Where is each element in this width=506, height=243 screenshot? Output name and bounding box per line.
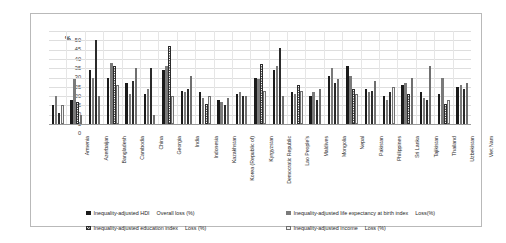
bar[interactable]	[239, 92, 241, 124]
bar[interactable]	[132, 81, 134, 124]
bar[interactable]	[113, 66, 115, 124]
bar[interactable]	[110, 63, 112, 124]
legend-item[interactable]: Inequality-adjusted life expectancy at b…	[286, 210, 486, 216]
bar[interactable]	[404, 83, 406, 124]
legend-item[interactable]: Inequality-adjusted incomeLoss (%)	[286, 225, 486, 231]
bar[interactable]	[76, 102, 78, 124]
bar[interactable]	[383, 96, 385, 124]
bar[interactable]	[89, 70, 91, 124]
bar[interactable]	[190, 76, 192, 124]
bar[interactable]	[125, 83, 127, 124]
bar[interactable]	[441, 78, 443, 125]
bar[interactable]	[220, 102, 222, 124]
bar[interactable]	[337, 79, 339, 124]
bar[interactable]	[135, 68, 137, 124]
bar[interactable]	[263, 91, 265, 124]
bar[interactable]	[70, 100, 72, 124]
bar[interactable]	[129, 94, 131, 124]
bar[interactable]	[273, 70, 275, 124]
bar[interactable]	[98, 96, 100, 124]
bar[interactable]	[61, 105, 63, 124]
bar[interactable]	[312, 92, 314, 124]
bar[interactable]	[165, 66, 167, 124]
bar[interactable]	[319, 89, 321, 124]
bar[interactable]	[423, 98, 425, 124]
legend-swatch-icon	[86, 211, 91, 216]
bar[interactable]	[52, 105, 54, 124]
bar[interactable]	[181, 91, 183, 124]
bar[interactable]	[365, 89, 367, 124]
bar[interactable]	[153, 115, 155, 124]
bar[interactable]	[227, 98, 229, 124]
bar[interactable]	[456, 87, 458, 124]
bar[interactable]	[346, 66, 348, 124]
bar[interactable]	[438, 94, 440, 124]
bar[interactable]	[392, 87, 394, 124]
bar[interactable]	[245, 96, 247, 124]
legend-item[interactable]: Inequality-adjusted education indexLoss …	[86, 225, 286, 231]
bar[interactable]	[420, 92, 422, 124]
bar-group	[361, 31, 379, 124]
bar[interactable]	[162, 70, 164, 124]
bar[interactable]	[328, 76, 330, 124]
bar[interactable]	[355, 94, 357, 124]
bar[interactable]	[116, 85, 118, 124]
bar-group	[305, 31, 323, 124]
bar[interactable]	[276, 66, 278, 124]
bar[interactable]	[389, 92, 391, 124]
bar[interactable]	[80, 115, 82, 124]
bar[interactable]	[282, 96, 284, 124]
bar[interactable]	[236, 94, 238, 124]
legend-sublabel: Loss(%)	[415, 210, 435, 216]
bar[interactable]	[294, 94, 296, 124]
bar[interactable]	[202, 98, 204, 124]
bar[interactable]	[257, 79, 259, 124]
bar[interactable]	[447, 100, 449, 124]
bar[interactable]	[208, 96, 210, 124]
bar[interactable]	[242, 96, 244, 124]
bar[interactable]	[168, 46, 170, 124]
bar[interactable]	[184, 92, 186, 124]
bar[interactable]	[279, 48, 281, 124]
bar[interactable]	[58, 113, 60, 124]
legend-item[interactable]: Inequality-adjusted HDIOverall loss (%)	[86, 210, 286, 216]
bar[interactable]	[205, 104, 207, 124]
bar[interactable]	[254, 78, 256, 125]
bar[interactable]	[224, 105, 226, 124]
bar[interactable]	[463, 89, 465, 124]
bar[interactable]	[260, 64, 262, 124]
bar[interactable]	[187, 89, 189, 124]
bar[interactable]	[217, 100, 219, 124]
bar[interactable]	[309, 96, 311, 124]
bar[interactable]	[107, 78, 109, 125]
bar[interactable]	[150, 68, 152, 124]
bar[interactable]	[371, 91, 373, 124]
bar[interactable]	[368, 92, 370, 124]
bar[interactable]	[199, 92, 201, 124]
bar[interactable]	[460, 85, 462, 124]
bar[interactable]	[147, 89, 149, 124]
bar[interactable]	[95, 40, 97, 124]
bar[interactable]	[407, 94, 409, 124]
bar[interactable]	[300, 91, 302, 124]
bar[interactable]	[426, 100, 428, 124]
bar[interactable]	[92, 78, 94, 125]
bar[interactable]	[73, 79, 75, 124]
bar[interactable]	[374, 81, 376, 124]
bar[interactable]	[411, 78, 413, 125]
bar[interactable]	[144, 94, 146, 124]
bar[interactable]	[401, 85, 403, 124]
bar[interactable]	[297, 85, 299, 124]
bar[interactable]	[331, 68, 333, 124]
bar[interactable]	[55, 96, 57, 124]
bar[interactable]	[171, 96, 173, 124]
bar[interactable]	[316, 100, 318, 124]
bar[interactable]	[349, 76, 351, 124]
bar[interactable]	[352, 89, 354, 124]
bar[interactable]	[291, 92, 293, 124]
bar[interactable]	[386, 100, 388, 124]
bar[interactable]	[466, 83, 468, 124]
bar[interactable]	[334, 83, 336, 124]
bar[interactable]	[429, 66, 431, 124]
bar[interactable]	[444, 104, 446, 124]
